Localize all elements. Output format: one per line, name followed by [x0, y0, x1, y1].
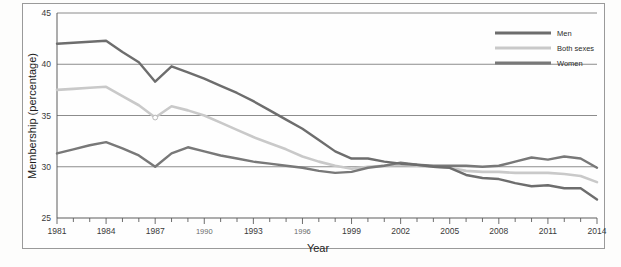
- figure-container: 2530354045 19811984198719901993199619992…: [0, 0, 621, 267]
- x-tickmarks-group: [57, 218, 597, 224]
- x-tick-label-2002: 2002: [391, 226, 410, 236]
- series-line-both-sexes: [57, 87, 597, 182]
- x-tick-label-1987: 1987: [146, 226, 165, 236]
- gridlines-group: [57, 13, 597, 218]
- x-tick-label-2014: 2014: [588, 226, 607, 236]
- x-tick-label-1981: 1981: [48, 226, 67, 236]
- legend-label-both-sexes: Both sexes: [557, 44, 594, 53]
- y-tick-label-45: 45: [42, 8, 52, 18]
- legend: MenBoth sexesWomen: [495, 29, 594, 68]
- y-axis-title: Membership (percentage): [26, 53, 38, 179]
- y-tick-label-40: 40: [42, 59, 52, 69]
- line-chart-svg: 2530354045 19811984198719901993199619992…: [0, 0, 621, 267]
- x-tick-label-1990: 1990: [196, 227, 213, 236]
- legend-label-men: Men: [557, 29, 572, 38]
- x-tick-label-1984: 1984: [97, 226, 116, 236]
- y-tick-label-35: 35: [42, 111, 52, 121]
- x-tick-label-1996: 1996: [294, 227, 311, 236]
- y-tick-label-25: 25: [42, 213, 52, 223]
- chart-plot-area: 2530354045 19811984198719901993199619992…: [0, 0, 621, 267]
- x-tick-label-2011: 2011: [539, 226, 558, 236]
- legend-label-women: Women: [557, 59, 583, 68]
- x-axis-title: Year: [307, 242, 330, 254]
- x-tick-label-2005: 2005: [440, 226, 459, 236]
- y-axis-tick-labels: 2530354045: [42, 8, 52, 223]
- x-axis-tick-labels: 1981198419871990199319961999200220052008…: [48, 226, 607, 236]
- data-marker-both-sexes-1987: [153, 115, 158, 120]
- data-markers-group: [153, 115, 158, 120]
- x-tick-label-2008: 2008: [489, 226, 508, 236]
- x-tick-label-1999: 1999: [342, 226, 361, 236]
- y-tick-label-30: 30: [42, 162, 52, 172]
- x-tick-label-1993: 1993: [244, 226, 263, 236]
